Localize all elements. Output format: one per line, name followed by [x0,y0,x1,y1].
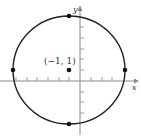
x-ticks [16,77,112,81]
x-axis-label: x [132,83,137,92]
top-point [67,14,72,19]
y-axis-arrow-icon [78,6,83,11]
center-label: (−1, 1) [44,56,76,66]
y-axis-label: y [72,5,78,14]
center-point [67,68,72,73]
y-ticks [80,27,84,113]
bottom-point [67,122,72,127]
right-point [123,68,128,73]
coordinate-plane: (−1, 1) y x [0,0,141,138]
left-point [11,68,16,73]
